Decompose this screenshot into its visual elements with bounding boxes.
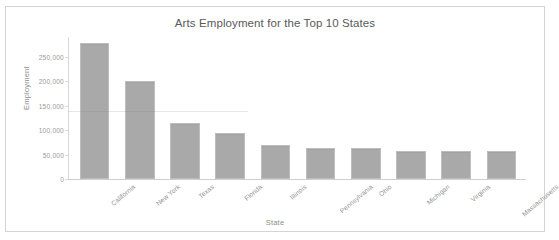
y-axis-tick-label: 150,000 — [39, 102, 64, 109]
y-axis-tick-label: 200,000 — [39, 78, 64, 85]
bar — [261, 145, 291, 179]
chart-container: Arts Employment for the Top 10 States Em… — [5, 6, 545, 232]
bar — [215, 133, 245, 179]
x-axis-tick-label: Florida — [243, 183, 263, 202]
x-axis-tick-label: Virginia — [470, 183, 492, 203]
bar — [396, 151, 426, 179]
chart-title: Arts Employment for the Top 10 States — [6, 17, 544, 29]
y-axis-tick-mark — [65, 179, 68, 180]
y-axis-tick-label: 50,000 — [43, 151, 64, 158]
y-axis-tick-mark — [65, 57, 68, 58]
plot-area — [68, 37, 520, 179]
y-axis-tick-mark — [65, 106, 68, 107]
bar — [125, 81, 155, 179]
x-axis-tick-label: Illinois — [288, 183, 307, 201]
y-axis-tick-label: 250,000 — [39, 53, 64, 60]
y-axis-tick-mark — [65, 155, 68, 156]
x-axis-line — [68, 179, 526, 180]
x-axis-tick-label: Pennsylvania — [338, 183, 373, 214]
x-axis-tick-label: Massachusetts — [520, 183, 559, 217]
bar — [351, 148, 381, 179]
y-axis-tick-label: 100,000 — [39, 127, 64, 134]
y-axis-tick-label: 0 — [60, 176, 64, 183]
x-axis-title: State — [6, 218, 544, 227]
bar — [487, 151, 517, 179]
x-axis-tick-label: New York — [155, 183, 181, 207]
y-axis-tick-labels: 050,000100,000150,000200,000250,000 — [6, 7, 64, 240]
x-axis-tick-label: Michigan — [426, 183, 451, 206]
y-axis-tick-mark — [65, 130, 68, 131]
y-axis-tick-mark — [65, 81, 68, 82]
x-axis-tick-label: California — [110, 183, 137, 207]
bar — [80, 43, 110, 179]
x-axis-tick-label: Ohio — [377, 183, 392, 198]
bar — [170, 123, 200, 179]
bar — [441, 151, 471, 179]
x-axis-tick-label: Texas — [197, 183, 215, 200]
bar — [306, 148, 336, 179]
